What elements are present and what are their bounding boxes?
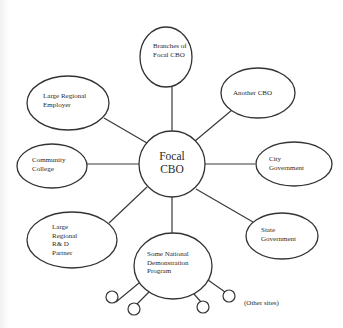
hub-focal-cbo-label: Focal CBO — [148, 150, 196, 176]
node-large-regional-employer-label: Large Regional Employer — [43, 92, 86, 109]
edge-large-regional-rd-partner — [109, 187, 147, 223]
node-large-regional-rd-partner-label: Large Regional R& D Partner — [52, 223, 77, 257]
edge-state-government — [196, 189, 253, 222]
edge-large-regional-employer — [104, 118, 147, 143]
site-circle-4 — [223, 290, 235, 302]
site-circle-2 — [128, 303, 140, 315]
edge-another-cbo — [195, 110, 232, 141]
site-circle-3 — [197, 301, 209, 313]
edge-site-4 — [208, 280, 225, 292]
edge-site-1 — [116, 283, 139, 302]
site-circle-1 — [106, 291, 118, 303]
node-state-government-label: State Government — [261, 226, 296, 243]
node-branches-label: Branches of Focal CBO — [153, 42, 187, 59]
other-sites-label: (Other sites) — [244, 299, 279, 308]
node-city-government-label: City Government — [269, 155, 304, 172]
node-another-cbo-label: Another CBO — [233, 89, 272, 98]
edge-site-2 — [137, 292, 149, 304]
edge-site-3 — [194, 294, 201, 302]
node-community-college-label: Community College — [32, 156, 65, 173]
node-national-demo-program-label: Some National Demonstration Program — [147, 250, 189, 276]
